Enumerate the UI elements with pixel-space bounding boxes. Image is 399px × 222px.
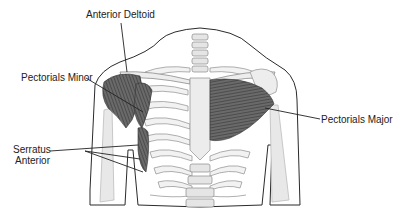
label-serratus-anterior-line2: Anterior bbox=[15, 155, 50, 166]
label-anterior-deltoid: Anterior Deltoid bbox=[86, 9, 155, 20]
label-serratus-anterior-line1: Serratus bbox=[13, 144, 51, 155]
serratus-anterior-muscle bbox=[138, 128, 149, 173]
sternum bbox=[190, 78, 210, 160]
leader-anterior-deltoid bbox=[121, 23, 127, 72]
label-pectorals-major: Pectorials Major bbox=[321, 114, 393, 125]
torso-diagram bbox=[0, 0, 399, 222]
label-pectorals-minor: Pectorials Minor bbox=[21, 72, 93, 83]
leader-serratus-1 bbox=[50, 145, 138, 151]
